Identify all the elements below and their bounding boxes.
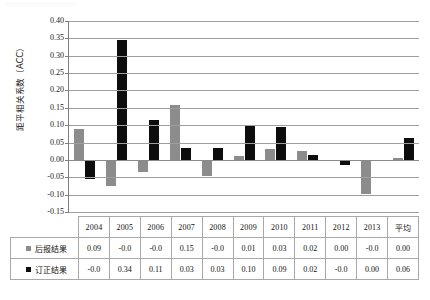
table-cell: 0.09: [264, 259, 295, 280]
bar-2007-订正结果: [181, 148, 191, 160]
gridline: [69, 108, 419, 109]
y-axis-tick-label: 0.20: [50, 85, 64, 95]
table-cell: 0.10: [233, 259, 264, 280]
y-axis-tick-label: 0.35: [50, 33, 64, 43]
gridline: [69, 21, 419, 22]
table-cell: 0.03: [264, 238, 295, 259]
table-corner-cell: [11, 217, 79, 238]
y-axis-tick: [65, 160, 69, 161]
table-header-cell-2013: 2013: [357, 217, 388, 238]
y-axis-tick-label: 0.00: [50, 155, 64, 165]
y-axis-tick: [65, 143, 69, 144]
gridline: [69, 90, 419, 91]
table-cell: 0.00: [357, 259, 388, 280]
y-axis-tick: [65, 90, 69, 91]
table-cell: -0.0: [202, 238, 233, 259]
table-header-row: 2004200520062007200820092010201120122013…: [11, 217, 419, 238]
table-cell: 0.09: [79, 238, 110, 259]
chart-plot-area: 距平相关系数（ACC） 0.400.350.300.250.200.150.10…: [0, 0, 430, 232]
table-header-cell-2009: 2009: [233, 217, 264, 238]
legend-row-label-后报结果: 后报结果: [11, 238, 79, 259]
y-axis-tick: [65, 56, 69, 57]
table-header-cell-2004: 2004: [79, 217, 110, 238]
y-axis-tick: [65, 212, 69, 213]
legend-row-label-订正结果: 订正结果: [11, 259, 79, 280]
legend-swatch-icon: [26, 267, 31, 272]
bar-2006-后报结果: [138, 160, 148, 172]
y-axis-tick-label: 0.30: [50, 51, 64, 61]
table-header-cell-2006: 2006: [140, 217, 171, 238]
gridline: [69, 73, 419, 74]
table-row: 订正结果-0.00.340.110.030.030.100.090.02-0.0…: [11, 259, 419, 280]
table-cell: 0.00: [326, 238, 357, 259]
y-axis-tick-labels: 0.400.350.300.250.200.150.100.050.00-0.0…: [28, 16, 64, 216]
bar-2011-后报结果: [297, 151, 307, 160]
y-axis-tick: [65, 38, 69, 39]
y-axis-tick-label: -0.05: [47, 172, 64, 182]
y-axis-tick: [65, 108, 69, 109]
plot-canvas: [68, 21, 418, 212]
table-header-cell-2007: 2007: [171, 217, 202, 238]
bar-2004-订正结果: [85, 160, 95, 179]
y-axis-title: 距平相关系数（ACC）: [13, 27, 27, 147]
legend-swatch-icon: [26, 246, 31, 251]
y-axis-tick-label: 0.40: [50, 16, 64, 26]
bar-2004-后报结果: [74, 129, 84, 160]
bar-2007-后报结果: [170, 105, 180, 160]
bar-2010-后报结果: [265, 149, 275, 160]
y-axis-tick-label: -0.10: [47, 190, 64, 200]
table-header-cell-2010: 2010: [264, 217, 295, 238]
data-table: 2004200520062007200820092010201120122013…: [10, 216, 419, 280]
y-axis-tick: [65, 177, 69, 178]
table-header-cell-2008: 2008: [202, 217, 233, 238]
bar-group: [69, 21, 419, 212]
bar-2005-后报结果: [106, 160, 116, 186]
table-header-cell-2005: 2005: [109, 217, 140, 238]
table-cell: -0.0: [109, 238, 140, 259]
gridline: [69, 56, 419, 57]
table-cell: 0.02: [295, 259, 326, 280]
table-header-cell-平均: 平均: [388, 217, 419, 238]
table-cell: 0.15: [171, 238, 202, 259]
table-header-cell-2011: 2011: [295, 217, 326, 238]
gridline: [69, 212, 419, 213]
table-cell: 0.03: [171, 259, 202, 280]
gridline: [69, 177, 419, 178]
table-cell: -0.0: [357, 238, 388, 259]
gridline: [69, 195, 419, 196]
y-axis-tick: [65, 73, 69, 74]
y-axis-tick-label: 0.10: [50, 120, 64, 130]
table-row: 后报结果0.09-0.0-0.00.15-0.00.010.030.020.00…: [11, 238, 419, 259]
bar-2008-订正结果: [213, 148, 223, 160]
table-cell: 0.02: [295, 238, 326, 259]
gridline: [69, 38, 419, 39]
table-cell: -0.0: [326, 259, 357, 280]
gridline: [69, 143, 419, 144]
table-cell: 0.00: [388, 238, 419, 259]
gridline: [69, 125, 419, 126]
y-axis-tick-label: 0.25: [50, 68, 64, 78]
table-cell: 0.03: [202, 259, 233, 280]
table-cell: -0.0: [79, 259, 110, 280]
table-cell: 0.01: [233, 238, 264, 259]
table-cell: 0.11: [140, 259, 171, 280]
y-axis-tick-label: 0.05: [50, 138, 64, 148]
table-cell: -0.0: [140, 238, 171, 259]
y-axis-tick: [65, 125, 69, 126]
table-cell: 0.06: [388, 259, 419, 280]
bar-2008-后报结果: [202, 160, 212, 176]
y-axis-tick: [65, 195, 69, 196]
y-axis-tick-label: 0.15: [50, 103, 64, 113]
legend-label-text: 后报结果: [35, 245, 67, 254]
y-axis-tick: [65, 21, 69, 22]
table-header-cell-2012: 2012: [326, 217, 357, 238]
legend-label-text: 订正结果: [35, 266, 67, 275]
chart-page: 距平相关系数（ACC） 0.400.350.300.250.200.150.10…: [0, 0, 430, 300]
table-cell: 0.34: [109, 259, 140, 280]
gridline: [69, 160, 419, 161]
